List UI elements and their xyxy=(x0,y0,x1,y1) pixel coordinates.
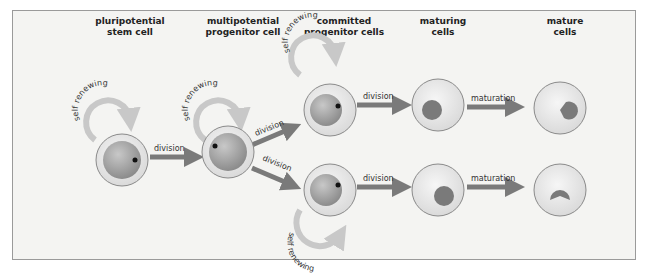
hematopoiesis-diagram: self renewing self renewing self renewin… xyxy=(0,0,659,274)
committed-progenitor-icon xyxy=(304,84,356,136)
self-renewing-loop-icon: self renewing xyxy=(71,78,130,140)
committed-progenitor-icon xyxy=(304,164,356,216)
maturing-cell-icon xyxy=(412,164,464,216)
maturation-label: maturation xyxy=(471,174,515,183)
stem-cell-icon xyxy=(96,134,148,186)
division-label: division xyxy=(363,92,394,101)
maturation-label: maturation xyxy=(471,94,515,103)
division-label: division xyxy=(261,154,293,174)
multipotential-progenitor-icon xyxy=(202,126,254,178)
mature-cell-icon xyxy=(534,82,586,134)
maturing-cell-icon xyxy=(412,79,464,131)
mature-cell-icon xyxy=(534,164,586,216)
self-renewing-loop-icon: self renewing xyxy=(285,210,340,273)
division-label: division xyxy=(154,144,185,153)
self-renewing-loop-icon: self renewing xyxy=(281,10,335,75)
division-label: division xyxy=(363,174,394,183)
